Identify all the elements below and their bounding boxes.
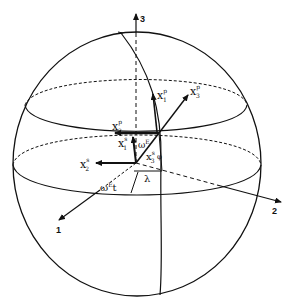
meridian-segment	[131, 172, 138, 193]
label-omega-t: ωEt	[100, 181, 117, 193]
label-phi: φ	[157, 153, 162, 161]
label-x3p: xp3	[190, 83, 200, 99]
celestial-sphere-diagram: 3 1 2 xp1 xp3 xp2 xs1 xs2 xs3 ωE ωEt λ φ	[0, 0, 293, 306]
axis-1-label: 1	[56, 225, 61, 235]
axis-2-solid	[217, 185, 281, 202]
label-x2s: xs2	[80, 156, 89, 172]
label-x1s: xs1	[118, 135, 127, 151]
sphere-outline	[13, 32, 261, 296]
label-x1p: xp1	[157, 87, 167, 103]
label-x3s: xs3	[146, 149, 155, 164]
axis-2-label: 2	[272, 206, 277, 216]
axis-1-solid	[59, 190, 100, 220]
label-lambda: λ	[144, 173, 151, 184]
equator-front	[13, 165, 261, 195]
axis-3-label: 3	[140, 14, 145, 24]
label-x2p: xp2	[112, 118, 122, 134]
